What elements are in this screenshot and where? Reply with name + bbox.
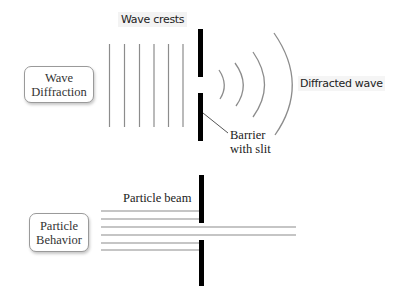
diffracted-arc: [253, 52, 265, 117]
wave-crest-lines: [110, 44, 184, 127]
diffracted-wave-arcs: [219, 33, 292, 135]
wave-barrier-top: [198, 29, 203, 77]
particle-barrier-bottom: [199, 240, 204, 286]
diffracted-arc: [274, 33, 292, 135]
particle-behavior-label-line2: Behavior: [36, 233, 82, 247]
particle-behavior-label-line1: Particle: [40, 219, 78, 233]
diagram-graphics: [0, 0, 395, 303]
wave-diffraction-box: Wave Diffraction: [24, 66, 94, 103]
barrier-pointer-line: [203, 113, 228, 133]
particle-behavior-box: Particle Behavior: [29, 213, 89, 252]
barrier-label-line1: Barrier: [230, 128, 271, 142]
particle-barrier: [199, 175, 204, 286]
particle-beam-lines: [101, 211, 296, 250]
diagram-canvas: Wave Diffraction Wave crests Diffracted …: [0, 0, 395, 303]
wave-diffraction-label-line2: Diffraction: [31, 85, 86, 99]
barrier-with-slit-label: Barrier with slit: [230, 128, 271, 156]
wave-crests-label: Wave crests: [118, 12, 187, 27]
diffracted-wave-label: Diffracted wave: [298, 76, 385, 91]
barrier-label-line2: with slit: [230, 142, 271, 156]
diffracted-arc: [235, 63, 243, 106]
wave-barrier: [198, 29, 203, 141]
wave-barrier-bottom: [198, 93, 203, 141]
particle-barrier-top: [199, 175, 204, 223]
diffracted-arc: [219, 70, 224, 99]
wave-diffraction-label-line1: Wave: [45, 71, 73, 85]
particle-beam-label: Particle beam: [123, 191, 191, 205]
